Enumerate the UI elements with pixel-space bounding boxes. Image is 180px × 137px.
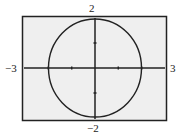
xmin-label: −3	[5, 63, 17, 74]
ymax-label: 2	[89, 3, 95, 14]
xmax-label: 3	[170, 63, 176, 74]
graph-plot	[0, 0, 180, 137]
ymin-label: −2	[87, 123, 99, 134]
